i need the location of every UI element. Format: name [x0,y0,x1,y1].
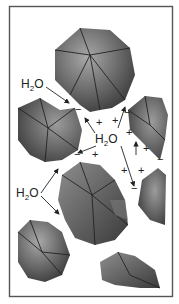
plus-sign: + [138,164,144,176]
plus-sign: + [143,142,149,154]
arrow-lower-left-up [41,169,58,193]
particle-center [58,162,128,245]
minus-sign: − [75,103,81,115]
h2o-label-top-left: H2O [21,77,43,93]
plus-sign: + [112,114,118,126]
plus-sign: + [92,148,98,160]
arrow-center-upleft [85,118,95,133]
minus-sign: − [124,106,130,118]
arrow-lower-left-down [41,196,59,214]
h2o-label-center: H2O [95,132,117,148]
particle-bottom-right [100,252,160,288]
minus-sign: − [131,182,137,194]
particle-top [55,28,135,112]
particle-right-lower [138,168,166,225]
h2o-label-lower-left: H2O [16,186,38,202]
water-particle-diagram: H2O H2O H2O − + + − + + − + − + + − [0,0,179,304]
plus-sign: + [121,164,127,176]
particle-bottom-left [18,220,70,282]
minus-sign: − [157,153,163,165]
plus-sign: + [96,116,102,128]
minus-sign: − [74,148,80,160]
particle-mid-left [18,98,82,162]
plus-sign: + [126,126,132,138]
